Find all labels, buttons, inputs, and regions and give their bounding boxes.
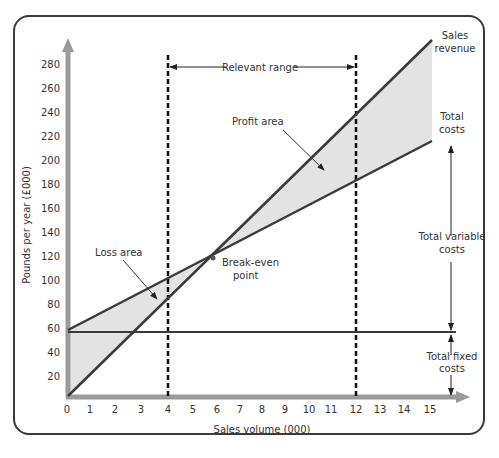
profit-area-label: Profit area <box>232 116 284 127</box>
svg-text:140: 140 <box>41 227 60 238</box>
svg-text:8: 8 <box>259 404 265 415</box>
relevant-range-label: Relevant range <box>222 62 298 73</box>
svg-text:6: 6 <box>214 404 220 415</box>
svg-text:80: 80 <box>47 299 60 310</box>
total-costs-label: Total <box>439 111 463 122</box>
svg-text:2: 2 <box>112 404 118 415</box>
svg-text:280: 280 <box>41 59 60 70</box>
svg-text:200: 200 <box>41 155 60 166</box>
svg-text:12: 12 <box>350 404 363 415</box>
loss-area-label: Loss area <box>95 247 142 258</box>
svg-text:10: 10 <box>303 404 316 415</box>
svg-text:0: 0 <box>64 404 70 415</box>
svg-text:7: 7 <box>237 404 243 415</box>
sales-revenue-line <box>68 40 432 396</box>
svg-text:5: 5 <box>190 404 196 415</box>
svg-text:120: 120 <box>41 251 60 262</box>
total-fixed-costs-label: Total fixed <box>426 351 478 362</box>
total-costs-line <box>68 141 432 330</box>
svg-text:260: 260 <box>41 83 60 94</box>
x-tick-labels: 0 1 2 3 4 5 6 7 8 9 10 11 12 13 14 15 <box>64 404 437 415</box>
x-axis-title: Sales volume (000) <box>214 424 311 435</box>
svg-text:13: 13 <box>374 404 387 415</box>
svg-text:14: 14 <box>398 404 411 415</box>
svg-text:20: 20 <box>47 371 60 382</box>
svg-text:100: 100 <box>41 275 60 286</box>
total-costs-label-2: costs <box>439 124 465 135</box>
svg-text:220: 220 <box>41 131 60 142</box>
sales-revenue-label-2: revenue <box>435 43 476 54</box>
svg-text:240: 240 <box>41 107 60 118</box>
y-axis-title: Pounds per year (£000) <box>21 166 32 284</box>
x-axis-arrowhead <box>456 391 470 403</box>
y-axis-arrowhead <box>62 38 74 52</box>
total-fixed-costs-label-2: costs <box>439 363 465 374</box>
total-variable-costs-label: Total variable <box>418 231 486 242</box>
break-even-label-2: point <box>233 270 259 281</box>
svg-text:1: 1 <box>87 404 93 415</box>
svg-text:9: 9 <box>282 404 288 415</box>
break-even-label: Break-even <box>222 257 279 268</box>
svg-text:180: 180 <box>41 179 60 190</box>
svg-text:40: 40 <box>47 347 60 358</box>
svg-text:3: 3 <box>138 404 144 415</box>
svg-text:15: 15 <box>424 404 437 415</box>
svg-text:4: 4 <box>165 404 171 415</box>
svg-text:11: 11 <box>325 404 338 415</box>
svg-text:160: 160 <box>41 203 60 214</box>
y-tick-labels: 280 260 240 220 200 180 160 140 120 100 … <box>41 59 60 382</box>
sales-revenue-label: Sales <box>442 30 469 41</box>
total-variable-costs-label-2: costs <box>439 244 465 255</box>
svg-text:60: 60 <box>47 323 60 334</box>
break-even-point-marker <box>211 256 216 261</box>
break-even-chart: 280 260 240 220 200 180 160 140 120 100 … <box>0 0 499 458</box>
